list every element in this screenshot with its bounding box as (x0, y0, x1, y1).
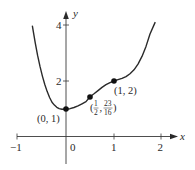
frac1-denominator: 2 (94, 108, 98, 117)
x-tick-label-1: 1 (111, 141, 117, 153)
frac2-denominator: 16 (104, 108, 112, 117)
point-label-half-23-16: ( 1 2 , 23 16 ) (90, 99, 117, 117)
frac1-numerator: 1 (94, 99, 98, 108)
y-axis-arrow-icon (63, 11, 69, 19)
point-label-1-2: (1, 2) (114, 85, 137, 97)
y-axis-label: y (72, 7, 78, 19)
x-tick-label-neg1: −1 (10, 141, 22, 153)
point-1-2 (111, 78, 117, 84)
function-graph: −1 0 1 2 x 4 2 y (0, 1) (1, 2) ( 1 2 , 2… (0, 0, 195, 170)
y-tick-label-4: 4 (56, 19, 62, 31)
x-axis-arrow-icon (170, 134, 178, 140)
point-label-0-1: (0, 1) (37, 113, 60, 125)
point-half-23-16 (87, 94, 93, 100)
x-tick-label-2: 2 (158, 141, 164, 153)
point-0-1 (63, 106, 69, 112)
x-axis-label: x (179, 130, 185, 142)
y-tick-label-2: 2 (56, 75, 62, 87)
comma: , (100, 102, 103, 113)
x-axis: −1 0 1 2 x (10, 130, 185, 153)
function-curve (32, 23, 155, 110)
paren-close: ) (113, 102, 117, 114)
x-tick-label-0: 0 (70, 141, 76, 153)
frac2-numerator: 23 (104, 99, 112, 108)
